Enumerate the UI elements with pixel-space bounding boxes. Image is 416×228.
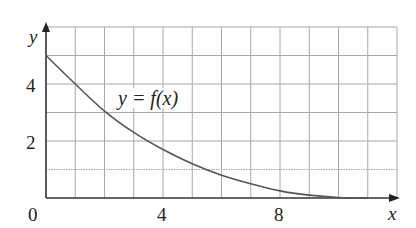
y-tick-2: 2	[26, 133, 36, 152]
origin-label: 0	[28, 205, 38, 224]
x-axis-arrow-icon	[389, 194, 400, 202]
x-axis-label: x	[388, 204, 396, 223]
x-tick-4: 4	[157, 205, 167, 224]
curve-annotation: y = f(x)	[116, 88, 180, 108]
curve-f-of-x	[46, 56, 368, 199]
y-axis-label: y	[29, 27, 37, 46]
y-tick-4: 4	[26, 76, 36, 95]
x-tick-8: 8	[274, 205, 284, 224]
grid-lines	[46, 27, 397, 198]
chart-plot-area	[0, 0, 416, 228]
